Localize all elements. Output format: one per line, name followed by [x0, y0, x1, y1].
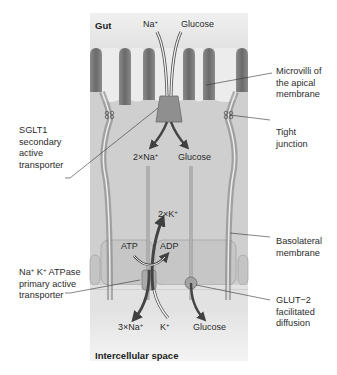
callout-tight-junction: Tight junction — [276, 127, 308, 150]
callout-na-k-atpase: Na+ K+ ATPase primary active transporter — [19, 265, 81, 302]
callout-sglt1: SGLT1 secondary active transporter — [19, 125, 63, 171]
region-label-intercellular: Intercellular space — [95, 350, 178, 362]
label-atp: ATP — [121, 241, 138, 251]
region-label-gut: Gut — [95, 20, 111, 32]
callout-microvilli: Microvilli of the apical membrane — [276, 66, 321, 101]
ion-label-na-apical: Na+ — [143, 19, 158, 29]
ion-label-glucose-out: Glucose — [193, 322, 226, 332]
callout-basolateral-membrane: Basolateral membrane — [276, 236, 322, 259]
ion-label-glucose-apical: Glucose — [181, 19, 214, 29]
ion-label-2na-intracellular: 2×Na+ — [133, 152, 158, 162]
ion-label-2k: 2×K+ — [158, 209, 178, 219]
callout-glut2: GLUT−2 facilitated diffusion — [276, 295, 315, 330]
sglt1-transporter — [156, 96, 182, 122]
label-adp: ADP — [160, 241, 179, 251]
ion-label-glucose-intracellular: Glucose — [178, 152, 211, 162]
ion-label-k-out: K+ — [160, 322, 170, 332]
ion-label-3na-out: 3×Na+ — [118, 322, 143, 332]
